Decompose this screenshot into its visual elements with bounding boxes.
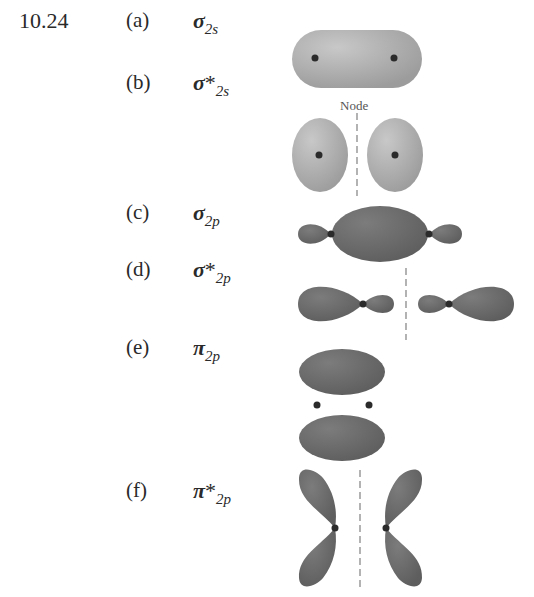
nucleus-icon (314, 402, 321, 409)
nucleus-icon (392, 152, 399, 159)
sigma-star-2s-orbital (292, 113, 423, 196)
nucleus-icon (426, 231, 433, 238)
nucleus-icon (312, 55, 319, 62)
nucleus-icon (328, 231, 335, 238)
pi-2p-orbital (299, 349, 385, 461)
nucleus-icon (446, 301, 453, 308)
pi-star-2p-orbital (299, 470, 422, 588)
sigma-2s-orbital (292, 30, 422, 88)
nucleus-icon (332, 525, 339, 532)
nucleus-icon (391, 55, 398, 62)
orbital-diagram (0, 0, 534, 597)
nucleus-icon (316, 152, 323, 159)
nucleus-icon (383, 525, 390, 532)
nucleus-icon (366, 402, 373, 409)
nucleus-icon (360, 301, 367, 308)
sigma-2p-orbital (298, 206, 462, 262)
sigma-star-2p-orbital (298, 268, 514, 340)
